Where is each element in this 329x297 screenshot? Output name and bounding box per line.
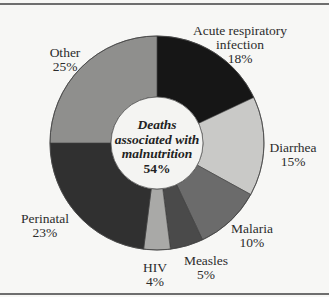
label-value: 25% [50,60,81,74]
label-text: HIV [143,261,167,275]
center-label-value: 54% [115,162,199,177]
label-text: Acute respiratory [193,24,287,38]
label-hiv: HIV4% [143,261,167,289]
label-measles: Measles5% [184,254,228,282]
center-label-line-3: malnutrition [115,147,199,162]
label-value: 5% [184,268,228,282]
label-malaria: Malaria10% [231,222,273,250]
label-perinatal: Perinatal23% [21,212,69,240]
label-value: 4% [143,275,167,289]
label-value: 10% [231,236,273,250]
center-label-line-2: associated with [115,133,199,148]
label-text: Measles [184,254,228,268]
label-text: infection [193,38,287,52]
label-acute-respiratory-infection: Acute respiratoryinfection18% [193,24,287,66]
label-text: Malaria [231,222,273,236]
label-diarrhea: Diarrhea15% [269,141,316,169]
center-label: Deaths associated with malnutrition 54% [115,118,199,176]
center-label-line-1: Deaths [115,118,199,133]
label-text: Other [50,46,81,60]
label-value: 18% [193,52,287,66]
label-value: 15% [269,155,316,169]
label-text: Diarrhea [269,141,316,155]
label-text: Perinatal [21,212,69,226]
label-value: 23% [21,226,69,240]
label-other: Other25% [50,46,81,74]
